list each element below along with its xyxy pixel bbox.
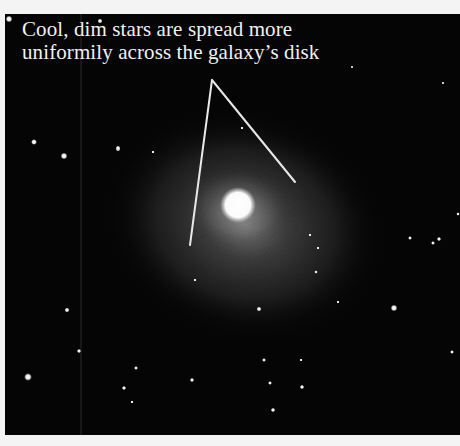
galaxy-core <box>220 187 256 223</box>
galaxy-photo <box>5 14 460 435</box>
galaxy-image <box>5 14 460 435</box>
caption-line-2: uniformily across the galaxy’s disk <box>22 41 382 64</box>
annotation-caption: Cool, dim stars are spread more uniformi… <box>22 18 382 63</box>
caption-line-1: Cool, dim stars are spread more <box>22 18 382 41</box>
